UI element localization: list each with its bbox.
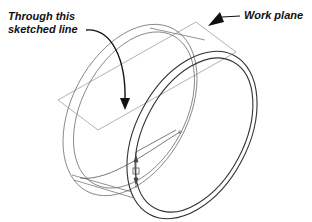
callout-line-1: Through this [8, 10, 78, 23]
sketched-line-callout: Through this sketched line [8, 10, 78, 36]
diagram: Through this sketched line Work plane [0, 0, 312, 222]
ring-connectors [72, 28, 205, 198]
callout-line-2: sketched line [8, 23, 78, 36]
arrowhead-icon [120, 98, 130, 110]
sketched-line-leader [86, 30, 130, 110]
work-plane [58, 22, 236, 130]
arrowhead-icon [208, 12, 224, 26]
front-ring [100, 29, 283, 222]
work-plane-callout: Work plane [244, 9, 303, 22]
work-plane-leader [208, 12, 240, 26]
